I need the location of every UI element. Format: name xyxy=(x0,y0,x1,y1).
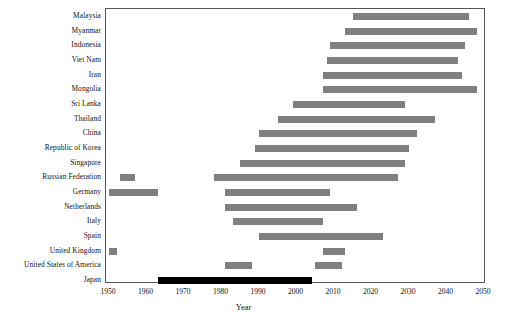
x-axis-title-text: Year xyxy=(236,303,251,312)
x-axis-tick-label: 1980 xyxy=(213,287,228,296)
y-axis-label: Iran xyxy=(0,70,101,79)
bar-segment xyxy=(109,248,117,255)
y-axis-label: Malaysia xyxy=(0,11,101,20)
bar-segment xyxy=(225,189,330,196)
y-axis-label: Mongolia xyxy=(0,84,101,93)
bar-segment xyxy=(120,174,135,181)
x-axis-title: Year xyxy=(0,303,505,312)
x-axis-tick-label: 1950 xyxy=(100,287,115,296)
y-axis-label: United States of America xyxy=(0,260,101,269)
bar-segment xyxy=(259,233,383,240)
chart-root: MalaysiaMyanmarIndonesiaViet NamIranMong… xyxy=(0,0,505,327)
x-axis-tick-label: 2040 xyxy=(438,287,453,296)
y-axis-label: China xyxy=(0,128,101,137)
bar-segment xyxy=(327,57,458,64)
bar-segment xyxy=(214,174,398,181)
bar-segment xyxy=(225,262,251,269)
x-axis-tick-label: 1990 xyxy=(250,287,265,296)
y-axis-label: Russian Federation xyxy=(0,172,101,181)
bar-segment xyxy=(293,101,406,108)
bar-segment xyxy=(158,277,312,284)
y-axis-label: Italy xyxy=(0,216,101,225)
y-axis-label: Sri Lanka xyxy=(0,99,101,108)
bar-segment xyxy=(323,72,462,79)
x-axis-tick-label: 2030 xyxy=(400,287,415,296)
bar-segment xyxy=(345,28,476,35)
y-axis-label: Spain xyxy=(0,231,101,240)
bar-segment xyxy=(323,248,346,255)
bar-segment xyxy=(259,130,417,137)
y-axis-label: Thailand xyxy=(0,114,101,123)
y-axis-label: Netherlands xyxy=(0,202,101,211)
bar-segment xyxy=(225,204,356,211)
x-axis-tick-label: 1960 xyxy=(138,287,153,296)
y-axis-label: Singapore xyxy=(0,158,101,167)
bar-segment xyxy=(240,160,405,167)
x-axis-tick-label: 2010 xyxy=(325,287,340,296)
plot-area xyxy=(105,8,485,283)
y-axis-label: Germany xyxy=(0,187,101,196)
y-axis-label: Viet Nam xyxy=(0,55,101,64)
x-axis-tick-label: 2050 xyxy=(475,287,490,296)
y-axis-category-labels: MalaysiaMyanmarIndonesiaViet NamIranMong… xyxy=(0,8,101,283)
bar-segment xyxy=(330,42,465,49)
bar-segment xyxy=(323,86,477,93)
bar-segment xyxy=(109,189,158,196)
y-axis-label: Japan xyxy=(0,275,101,284)
y-axis-label: United Kingdom xyxy=(0,246,101,255)
bar-segment xyxy=(315,262,341,269)
x-axis-tick-labels: 1950196019701980199020002010202020302040… xyxy=(0,287,505,301)
x-axis-tick-label: 2020 xyxy=(363,287,378,296)
y-axis-label: Republic of Korea xyxy=(0,143,101,152)
bar-segment xyxy=(278,116,436,123)
x-axis-tick-label: 2000 xyxy=(288,287,303,296)
x-axis-tick-label: 1970 xyxy=(175,287,190,296)
bar-segment xyxy=(353,13,469,20)
y-axis-label: Myanmar xyxy=(0,26,101,35)
bar-segment xyxy=(255,145,409,152)
y-axis-label: Indonesia xyxy=(0,40,101,49)
bar-segment xyxy=(233,218,323,225)
